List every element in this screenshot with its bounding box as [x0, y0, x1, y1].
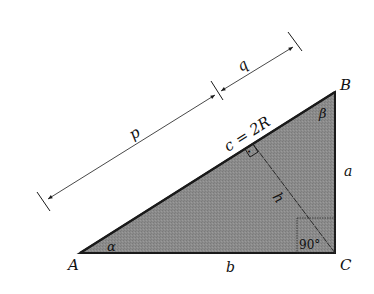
segment-label-p: p: [126, 123, 144, 144]
tick-start: [37, 192, 50, 211]
right-triangle-diagram: • A B C a b c = 2R α β 90° h p q: [0, 0, 374, 294]
angle-label-alpha: α: [107, 239, 116, 254]
dimension-line-q: [221, 47, 293, 91]
vertex-label-a: A: [66, 256, 79, 274]
vertex-label-b: B: [339, 76, 351, 94]
side-label-b: b: [226, 259, 235, 275]
angle-label-beta: β: [318, 106, 327, 121]
side-label-a: a: [344, 163, 352, 179]
angle-label-right: 90°: [299, 238, 320, 252]
segment-label-q: q: [234, 55, 252, 75]
altitude-foot-dot: •: [247, 148, 251, 156]
tick-end: [288, 32, 302, 51]
vertex-label-c: C: [340, 256, 352, 274]
